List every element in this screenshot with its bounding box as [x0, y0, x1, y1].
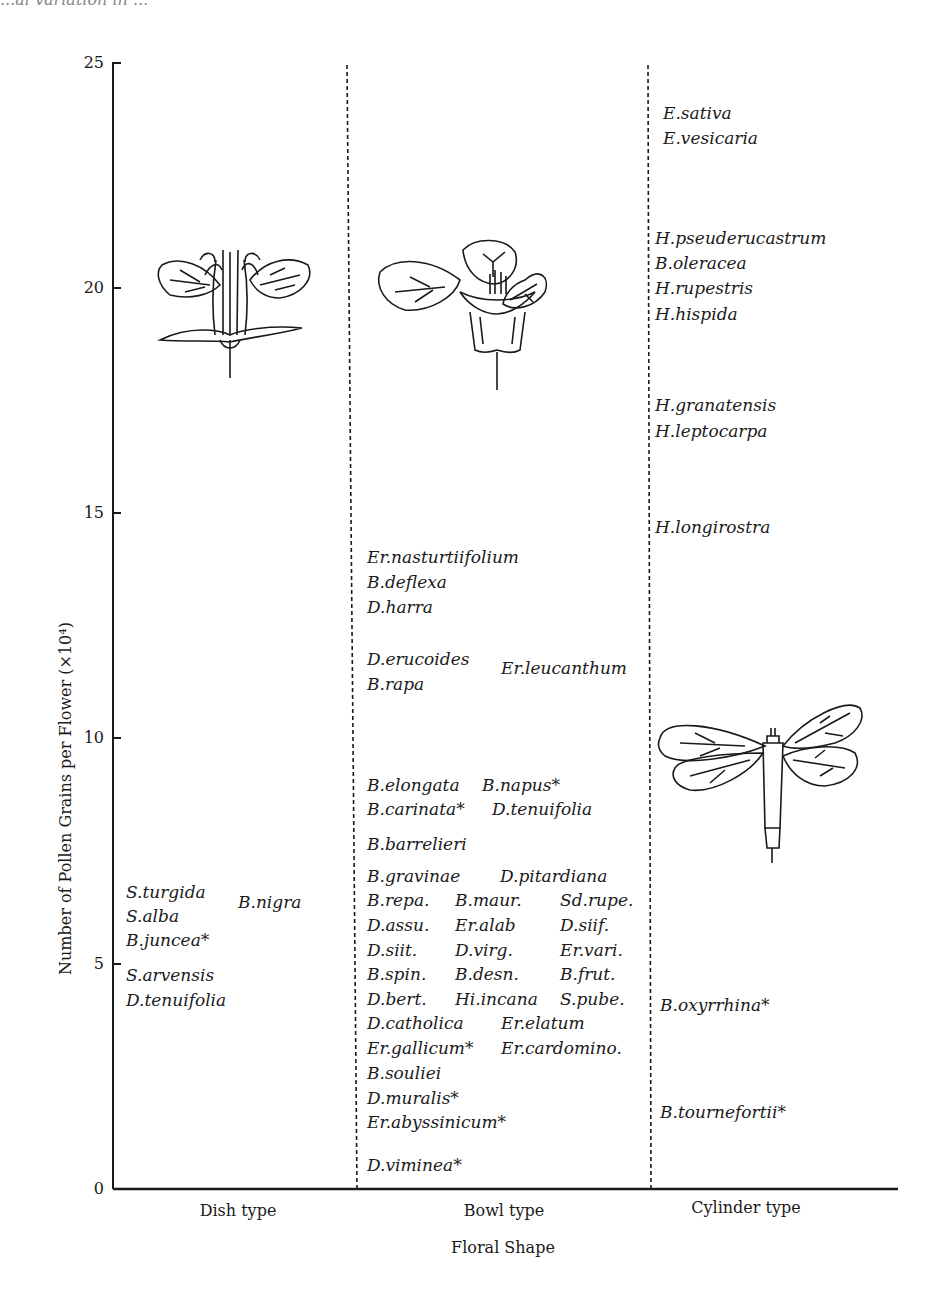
y-tick-10: 10 — [74, 728, 104, 747]
species-label: Sd.rupe. — [560, 890, 633, 910]
species-label: B.elongata — [367, 775, 460, 795]
species-label: D.bert. — [367, 989, 427, 1009]
cylinder-flower-illustration-icon — [655, 698, 870, 868]
species-label: D.virg. — [455, 940, 513, 960]
y-tick-0: 0 — [74, 1179, 104, 1198]
species-label: B.repa. — [367, 890, 430, 910]
species-label: B.rapa — [367, 674, 424, 694]
species-label: D.harra — [367, 597, 433, 617]
y-axis-label: Number of Pollen Grains per Flower (×10⁴… — [56, 622, 75, 975]
species-label: H.pseuderucastrum — [655, 228, 826, 248]
species-label: Er.gallicum* — [367, 1038, 474, 1058]
bowl-flower-illustration-icon — [375, 232, 550, 392]
species-label: E.vesicaria — [663, 128, 758, 148]
species-label: B.deflexa — [367, 572, 447, 592]
species-label: B.maur. — [455, 890, 522, 910]
species-label: Er.vari. — [560, 940, 623, 960]
species-label: D.siit. — [367, 940, 417, 960]
species-label: B.carinata* — [367, 799, 465, 819]
species-label: H.granatensis — [655, 395, 776, 415]
species-label: D.catholica — [367, 1013, 464, 1033]
species-label: H.longirostra — [655, 517, 770, 537]
species-label: S.arvensis — [126, 965, 214, 985]
species-label: B.spin. — [367, 964, 426, 984]
species-label: D.erucoides — [367, 649, 469, 669]
species-label: Er.elatum — [501, 1013, 585, 1033]
species-label: D.assu. — [367, 915, 429, 935]
species-label: H.hispida — [655, 304, 738, 324]
species-label: B.nigra — [238, 892, 301, 912]
species-label: Er.alab — [455, 915, 516, 935]
species-label: E.sativa — [663, 103, 732, 123]
species-label: S.pube. — [560, 989, 625, 1009]
y-tick-15: 15 — [74, 503, 104, 522]
species-label: D.tenuifolia — [492, 799, 592, 819]
species-label: D.siif. — [560, 915, 609, 935]
species-label: Er.cardomino. — [501, 1038, 622, 1058]
species-label: H.rupestris — [655, 278, 753, 298]
species-label: D.tenuifolia — [126, 990, 226, 1010]
species-label: B.barrelieri — [367, 834, 467, 854]
y-tick-20: 20 — [74, 278, 104, 297]
species-label: B.desn. — [455, 964, 519, 984]
species-label: D.pitardiana — [500, 866, 607, 886]
species-label: D.muralis* — [367, 1088, 459, 1108]
category-dish-type: Dish type — [138, 1201, 338, 1220]
species-label: H.leptocarpa — [655, 421, 767, 441]
species-label: Er.abyssinicum* — [367, 1112, 506, 1132]
species-label: Er.nasturtiifolium — [367, 547, 519, 567]
species-label: B.souliei — [367, 1063, 441, 1083]
species-label: B.oleracea — [655, 253, 747, 273]
species-label: B.tournefortii* — [660, 1102, 786, 1122]
category-bowl-type: Bowl type — [404, 1201, 604, 1220]
y-tick-25: 25 — [74, 53, 104, 72]
species-label: B.frut. — [560, 964, 616, 984]
category-cylinder-type: Cylinder type — [646, 1198, 846, 1217]
species-label: B.gravinae — [367, 866, 460, 886]
species-label: Er.leucanthum — [501, 658, 627, 678]
species-label: Hi.incana — [455, 989, 538, 1009]
y-tick-5: 5 — [74, 954, 104, 973]
species-label: B.oxyrrhina* — [660, 995, 770, 1015]
species-label: B.napus* — [482, 775, 560, 795]
species-label: S.turgida — [126, 882, 206, 902]
x-axis-label: Floral Shape — [403, 1238, 603, 1257]
species-label: D.viminea* — [367, 1155, 462, 1175]
chart-axes — [0, 0, 942, 1300]
dish-flower-illustration-icon — [150, 240, 320, 380]
species-label: S.alba — [126, 906, 179, 926]
species-label: B.juncea* — [126, 930, 209, 950]
